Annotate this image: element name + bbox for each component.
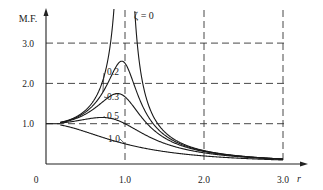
curve-zeta-0-below-resonance [60,9,114,122]
curve-zeta-0-2 [60,61,283,159]
y-axis-title: M.F. [19,13,38,24]
x-tick-label: 2.0 [198,175,210,185]
grid [46,10,285,164]
x-tick-label: 3.0 [277,175,289,185]
x-tick-label: 1.0 [119,175,131,185]
x-axis-arrow-icon [300,162,308,167]
x-axis-title: r [297,173,301,184]
axes [44,8,309,167]
curve-label-zeta-0-2: 0.2 [107,67,119,77]
tick-labels: 1.0 2.0 3.0 0 1.0 2.0 3.0 [22,39,289,185]
curves [46,9,283,160]
curve-label-zeta-1-0: 1.0 [108,134,120,144]
magnification-factor-chart: 1.0 2.0 3.0 0 1.0 2.0 3.0 M.F. r ζ = 0 0… [0,0,323,190]
y-axis-arrow-icon [44,8,49,16]
y-tick-label: 2.0 [22,79,34,89]
curve-label-zeta-0-3: 0.3 [107,92,119,102]
label-leader-line [103,73,104,92]
curve-label-zeta-0-5: 0.5 [107,111,119,121]
curve-zeta-0-above-resonance [135,11,283,159]
origin-label: 0 [34,175,39,185]
y-tick-label: 1.0 [22,119,34,129]
curve-zeta-1-0 [60,125,283,160]
y-tick-label: 3.0 [22,39,34,49]
curve-label-zeta-0: ζ = 0 [134,10,154,22]
curve-zeta-0-3 [60,94,283,160]
